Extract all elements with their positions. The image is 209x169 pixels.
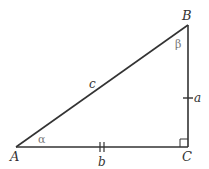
side-label-c: c xyxy=(89,77,96,91)
angle-label-alpha: α xyxy=(38,133,46,146)
angle-label-beta: β xyxy=(175,38,181,51)
right-triangle-diagram: B β c a α A b C xyxy=(0,0,209,169)
side-label-b: b xyxy=(98,155,106,169)
triangle-sides xyxy=(16,25,188,147)
vertex-label-a: A xyxy=(9,149,19,164)
right-angle-marker xyxy=(180,139,188,147)
vertex-label-c: C xyxy=(182,149,192,164)
side-c-hypotenuse xyxy=(16,25,188,147)
vertex-label-b: B xyxy=(181,8,192,23)
side-label-a: a xyxy=(194,91,201,105)
